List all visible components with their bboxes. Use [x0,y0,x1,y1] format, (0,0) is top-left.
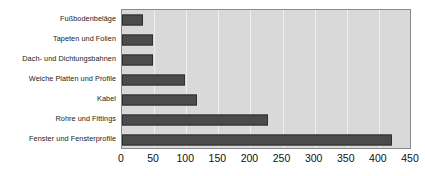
value-tick-label: 0 [118,152,124,164]
bar [122,15,143,26]
gridline [218,10,219,148]
value-axis: 050100150200250300350400450 [121,152,411,170]
category-label: Fenster und Fensterprofile [29,135,116,143]
bar [122,95,197,106]
gridline [283,10,284,148]
bar [122,135,392,146]
gridline [379,10,380,148]
value-tick-label: 200 [241,152,259,164]
plot-area [121,9,411,149]
value-tick-label: 100 [176,152,194,164]
value-tick-label: 150 [209,152,227,164]
category-label: Tapeten und Folien [53,35,116,43]
bar [122,35,153,46]
category-label: Dach- und Dichtungsbahnen [22,55,116,63]
category-axis: FußbodenbelägeTapeten und FolienDach- un… [0,9,119,149]
bar [122,55,153,66]
category-label: Rohre und Fittings [55,115,116,123]
value-tick-label: 350 [337,152,355,164]
gridline [347,10,348,148]
gridline [250,10,251,148]
category-label: Kabel [97,95,116,103]
category-label: Weiche Platten und Profile [29,75,116,83]
category-label: Fußbodenbeläge [60,15,116,23]
bar-chart: FußbodenbelägeTapeten und FolienDach- un… [0,0,425,176]
value-tick-label: 300 [305,152,323,164]
gridline [315,10,316,148]
value-tick-label: 450 [401,152,419,164]
bar [122,115,268,126]
value-tick-label: 400 [369,152,387,164]
value-tick-label: 250 [273,152,291,164]
value-tick-label: 50 [147,152,159,164]
bar [122,75,185,86]
gridline [186,10,187,148]
